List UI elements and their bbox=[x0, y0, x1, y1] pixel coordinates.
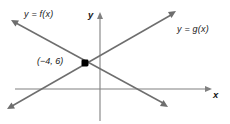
function-label-g: y = g(x) bbox=[177, 24, 209, 34]
x-axis-label: x bbox=[213, 89, 218, 100]
intersection-point-label: (−4, 6) bbox=[37, 56, 63, 66]
graph-figure: y = f(x) y = g(x) (−4, 6) y x bbox=[0, 0, 230, 124]
intersection-point-marker bbox=[82, 60, 89, 67]
line-g bbox=[7, 11, 176, 109]
line-g-segment bbox=[12, 15, 171, 106]
y-axis bbox=[97, 12, 103, 121]
x-axis-arrow-icon bbox=[205, 86, 212, 92]
line-f-arrow-lower-right-icon bbox=[160, 100, 168, 107]
line-g-arrow-upper-right-icon bbox=[168, 11, 176, 18]
y-axis-label: y bbox=[88, 9, 93, 20]
y-axis-arrow-icon bbox=[97, 12, 103, 19]
function-label-f: y = f(x) bbox=[24, 9, 53, 19]
